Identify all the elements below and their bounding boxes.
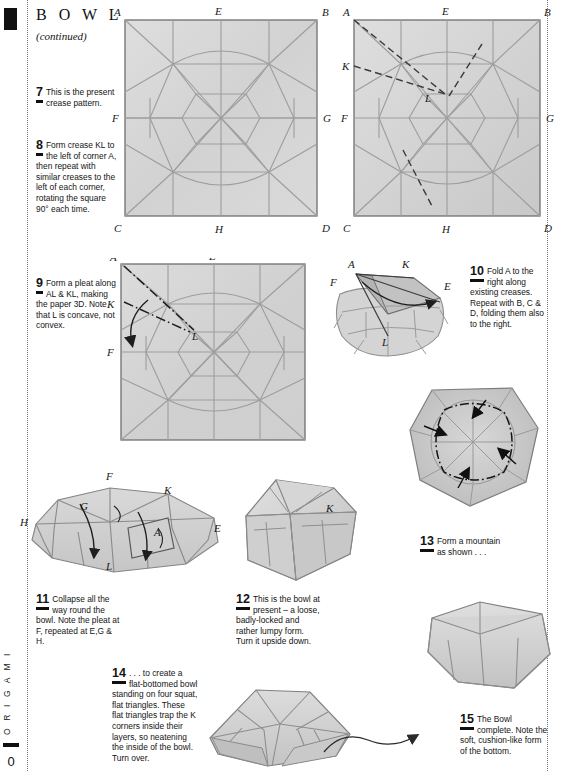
label-K: K: [325, 502, 334, 514]
label-F: F: [111, 112, 119, 124]
step-8-number: 8: [36, 140, 43, 151]
step-7-number: 7: [36, 87, 43, 98]
label-L: L: [381, 336, 388, 348]
step-11-number: 11: [36, 594, 49, 605]
label-L: L: [191, 330, 198, 342]
label-G: G: [323, 112, 331, 124]
left-dotted-rule: [27, 0, 28, 771]
label-D: D: [321, 222, 330, 234]
series-label: O R I G A M I: [2, 651, 20, 735]
figure-step-12: K: [230, 468, 370, 590]
label-A: A: [109, 258, 117, 263]
figure-step-8: A E B K L F G C H D: [337, 2, 555, 238]
figure-step-9: A E K L F: [104, 258, 322, 470]
label-H: H: [214, 223, 224, 235]
step-12: 12 This is the bowl at present – a loose…: [236, 594, 322, 647]
label-F: F: [340, 112, 348, 124]
swirl-arrow-path: [324, 736, 416, 752]
label-D: D: [543, 222, 552, 234]
figure-step-13: [400, 372, 550, 522]
label-F: F: [329, 276, 337, 288]
label-H: H: [441, 223, 451, 235]
step-14: 14 . . . to create a flat-bottomed bowl …: [112, 668, 198, 763]
bowl-underside: [410, 388, 538, 506]
step-14-number: 14: [112, 668, 126, 679]
label-L: L: [424, 92, 431, 104]
step-11: 11 Collapse all the way round the bowl. …: [36, 594, 120, 647]
label-E: E: [441, 5, 449, 17]
label-E: E: [213, 522, 221, 534]
folio-bar: [3, 743, 19, 747]
step-10-number: 10: [470, 266, 484, 277]
figure-step-7: A E B F G C H D: [108, 2, 336, 238]
label-K: K: [341, 60, 350, 72]
label-H: H: [19, 516, 29, 528]
step-7: 7 This is the present crease pattern.: [36, 87, 119, 108]
step-9-number: 9: [36, 278, 43, 289]
paper-square: [125, 20, 317, 216]
label-A: A: [153, 526, 161, 538]
step-12-number: 12: [236, 594, 250, 605]
label-F: F: [106, 346, 114, 358]
label-A: A: [113, 6, 121, 18]
paper-square: [121, 264, 305, 440]
page-corner-mark: [4, 8, 17, 30]
figure-step-11: H G F K A E L: [18, 470, 238, 582]
bowl-complete: [428, 602, 550, 688]
label-L: L: [105, 560, 112, 572]
label-A: A: [342, 6, 350, 18]
label-K: K: [401, 258, 410, 270]
label-A: A: [347, 258, 355, 270]
paper-square: [354, 20, 540, 216]
label-G: G: [546, 112, 554, 124]
label-F: F: [105, 470, 113, 482]
lumpy-bowl: [246, 480, 356, 580]
step-13-number: 13: [420, 536, 434, 547]
step-15-number: 15: [460, 714, 474, 725]
step-10: 10 Fold A to the right along existing cr…: [470, 266, 550, 330]
label-E: E: [443, 280, 451, 292]
page-subtitle: (continued): [36, 30, 87, 42]
label-B: B: [544, 6, 551, 18]
folio-number: 0: [3, 754, 19, 769]
figure-step-10: A K F E L: [318, 258, 458, 368]
label-K: K: [163, 484, 172, 496]
label-C: C: [114, 222, 122, 234]
label-E: E: [214, 5, 222, 17]
bowl-collapse: [32, 488, 218, 572]
folded-paper: [334, 274, 448, 356]
label-C: C: [343, 222, 351, 234]
step-7-text: This is the present crease pattern.: [36, 87, 119, 108]
turn-over-arrow: [320, 726, 430, 762]
label-K: K: [106, 298, 115, 310]
label-B: B: [322, 6, 329, 18]
step-13: 13 Form a mountain as shown . . .: [420, 536, 504, 557]
step-15: 15 The Bowl complete. Note the soft, cus…: [460, 714, 548, 756]
label-G: G: [80, 500, 88, 512]
figure-step-15: [418, 596, 558, 708]
label-E: E: [208, 258, 216, 262]
